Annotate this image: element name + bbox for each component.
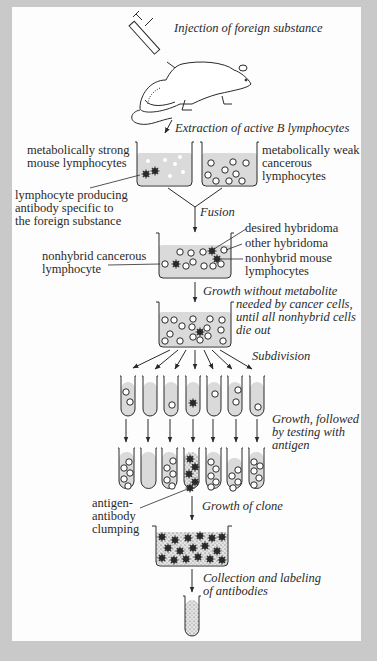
step-injection: Injection of foreign substance [174, 22, 322, 35]
label-clumping-3: clumping [92, 523, 139, 536]
label-nonhybrid-cancer-2: lymphocyte [42, 263, 101, 276]
growth-arrows [126, 419, 257, 442]
step-extraction: Extraction of active B lymphocytes [175, 122, 349, 135]
label-strong-2: mouse lymphocytes [27, 157, 127, 170]
test-tubes-row-1 [120, 376, 265, 416]
label-desired-hybridoma: desired hybridoma [245, 222, 338, 235]
beaker-clone [152, 526, 232, 566]
test-tube-antibodies [183, 596, 201, 636]
beaker-cancerous-lymphocytes [200, 142, 259, 186]
label-producing-3: the foreign substance [15, 215, 121, 228]
beaker-fusion-mix [156, 233, 234, 278]
hybridoma-diagram [0, 0, 377, 661]
beaker-mouse-lymphocytes [135, 142, 194, 186]
label-weak-3: lymphocytes [262, 170, 326, 183]
step-subdivision: Subdivision [252, 350, 310, 363]
step-testing-3: antigen [272, 439, 310, 452]
label-other-hybridoma: other hybridoma [245, 237, 328, 250]
step-fusion: Fusion [200, 206, 235, 219]
step-collection-2: of antibodies [203, 585, 268, 598]
beaker-selection [156, 302, 234, 347]
label-nonhybrid-mouse-2: lymphocytes [245, 265, 309, 278]
subdivision-arrows [133, 350, 252, 369]
step-growth-4: die out [236, 324, 270, 337]
step-clone: Growth of clone [202, 500, 283, 513]
mouse-icon [132, 62, 251, 124]
